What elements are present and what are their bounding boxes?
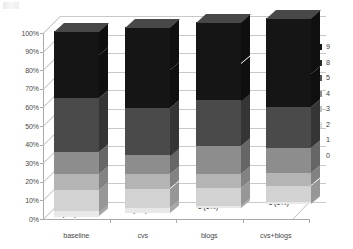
bar-segment-blogs-2[interactable] (196, 206, 241, 208)
segment-front-face (125, 208, 170, 213)
bar-segment-baseline-9b[interactable] (54, 31, 99, 55)
segment-side-face (170, 100, 179, 155)
segment-front-face (196, 22, 241, 63)
x-axis-category-label: blogs (176, 231, 242, 240)
segment-front-face (125, 155, 170, 174)
y-axis-tick-label: 50% (25, 123, 39, 130)
segment-front-face (54, 190, 99, 212)
legend-item-8[interactable]: 8 (316, 56, 353, 72)
bar-segment-cvs-8[interactable] (125, 108, 170, 156)
stacked-bar-chart: 0%10%20%30%40%50%60%70%80%90%100% 2 (3%)… (0, 0, 353, 249)
legend-label: 0 (326, 151, 330, 160)
legend-item-9[interactable]: 9 (316, 40, 353, 56)
legend-label: 9 (326, 42, 330, 51)
legend-label: 1 (326, 135, 330, 144)
segment-side-face (241, 93, 250, 146)
bar-segment-blogs-4[interactable] (196, 174, 241, 188)
bar-baseline[interactable]: 2 (3%)8 (12%)6 (9%)8 (12%)20 (29%)16 (23… (54, 0, 99, 249)
segment-front-face (196, 188, 241, 206)
bar-segment-baseline-3[interactable] (54, 190, 99, 212)
legend-label: 5 (326, 73, 330, 82)
y-axis-tick-label: 90% (25, 48, 39, 55)
legend-item-1[interactable]: 1 (316, 133, 353, 149)
legend-item-2[interactable]: 2 (316, 118, 353, 134)
x-axis-tick (243, 219, 244, 223)
segment-front-face (196, 100, 241, 146)
bar-segment-cvs-3[interactable] (125, 189, 170, 208)
segment-front-face (54, 211, 99, 216)
segment-front-face (196, 174, 241, 188)
segment-front-face (266, 148, 311, 173)
segment-front-face (266, 18, 311, 74)
segment-side-face (241, 15, 250, 64)
segment-front-face (54, 31, 99, 55)
segment-front-face (266, 186, 311, 203)
y-axis-tick-label: 30% (25, 160, 39, 167)
legend-label: 3 (326, 104, 330, 113)
y-axis-tick-label: 60% (25, 104, 39, 111)
legend-item-3[interactable]: 3 (316, 102, 353, 118)
segment-front-face (125, 108, 170, 156)
bar-segment-blogs-8[interactable] (196, 100, 241, 146)
segment-front-face (54, 174, 99, 190)
y-axis-tick-label: 40% (25, 141, 39, 148)
bar-segment-cvs+blogs-5[interactable] (266, 148, 311, 173)
segment-front-face (125, 189, 170, 208)
bar-segment-cvs-5[interactable] (125, 155, 170, 174)
bar-segment-cvs-9[interactable] (125, 70, 170, 108)
x-axis-tick (110, 219, 111, 223)
bar-segment-cvs+blogs-9[interactable] (266, 74, 311, 107)
x-axis-category-label: cvs (110, 231, 176, 240)
bar-segment-cvs-9b[interactable] (125, 27, 170, 70)
bar-segment-cvs+blogs-2[interactable] (266, 202, 311, 204)
segment-front-face (54, 152, 99, 174)
bar-cvs[interactable]: 2 (3%)8 (10%)6 (8%)8 (10%)20 (26%)16 (21… (125, 0, 170, 249)
bar-blogs[interactable]: 1 (1%)8 (10%)6 (7%)12 (15%)20 (25%)16 (2… (196, 0, 241, 249)
bar-segment-blogs-9b[interactable] (196, 22, 241, 63)
segment-front-face (266, 107, 311, 148)
plot-area: 0%10%20%30%40%50%60%70%80%90%100% 2 (3%)… (0, 0, 353, 249)
x-axis-category-label: baseline (43, 231, 109, 240)
segment-front-face (266, 202, 311, 204)
y-axis-labels: 0%10%20%30%40%50%60%70%80%90%100% (0, 0, 42, 249)
bar-segment-cvs+blogs-9b[interactable] (266, 18, 311, 74)
bar-segment-blogs-9[interactable] (196, 64, 241, 101)
segment-front-face (125, 70, 170, 108)
bar-segment-cvs-2[interactable] (125, 208, 170, 213)
segment-front-face (266, 173, 311, 185)
bar-segment-baseline-8[interactable] (54, 98, 99, 152)
bar-cvs+blogs[interactable]: 1 (1%)8 (9%)6 (7%)12 (13%)20 (22%)16 (18… (266, 0, 311, 249)
bar-segment-baseline-5[interactable] (54, 152, 99, 174)
segment-side-face (311, 99, 320, 148)
bar-segment-baseline-9[interactable] (54, 55, 99, 98)
x-axis-tick (176, 219, 177, 223)
y-axis-tick-label: 20% (25, 178, 39, 185)
y-axis-tick-label: 10% (25, 197, 39, 204)
segment-side-face (99, 91, 108, 152)
y-axis-tick-label: 80% (25, 67, 39, 74)
segment-side-face (241, 56, 250, 100)
segment-front-face (125, 27, 170, 70)
legend-item-0[interactable]: 0 (316, 149, 353, 165)
bar-segment-cvs+blogs-8[interactable] (266, 107, 311, 148)
segment-front-face (266, 74, 311, 107)
x-axis-category-label: cvs+blogs (243, 231, 309, 240)
bar-segment-cvs+blogs-4[interactable] (266, 173, 311, 185)
bar-segment-baseline-4[interactable] (54, 174, 99, 190)
legend-label: 4 (326, 89, 330, 98)
legend-label: 8 (326, 58, 330, 67)
y-axis-tick-label: 0% (29, 216, 39, 223)
bar-segment-cvs+blogs-3[interactable] (266, 186, 311, 203)
bar-segment-blogs-3[interactable] (196, 188, 241, 206)
legend-label: 2 (326, 120, 330, 129)
segment-front-face (196, 64, 241, 101)
legend-item-4[interactable]: 4 (316, 87, 353, 103)
bar-segment-cvs-4[interactable] (125, 174, 170, 188)
segment-front-face (54, 98, 99, 152)
y-axis-tick-label: 70% (25, 85, 39, 92)
segment-front-face (196, 206, 241, 208)
bar-segment-baseline-2[interactable] (54, 211, 99, 216)
chart-legend: 98543210 (316, 40, 353, 164)
legend-item-5[interactable]: 5 (316, 71, 353, 87)
bar-segment-blogs-5[interactable] (196, 146, 241, 174)
